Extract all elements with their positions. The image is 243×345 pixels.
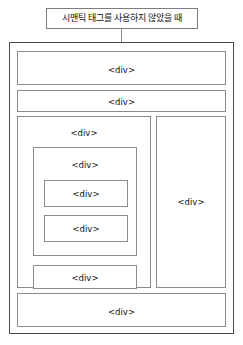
block-main-extra-div: <div> xyxy=(33,265,137,289)
block-section-two-div-label: <div> xyxy=(45,225,127,234)
diagram-root: 시맨틱 태그를 사용하지 않았을 때 <div> <div> <div> <di… xyxy=(0,0,243,345)
diagram-caption-box: 시맨틱 태그를 사용하지 않았을 때 xyxy=(46,8,198,29)
block-footer-div: <div> xyxy=(17,293,226,327)
block-article-div-label: <div> xyxy=(34,161,136,170)
block-section-two-div: <div> xyxy=(44,215,128,242)
caption-connector-line xyxy=(121,29,122,42)
block-article-div: <div> <div> <div> xyxy=(33,147,137,256)
block-nav-div: <div> xyxy=(17,90,226,112)
block-header-div-label: <div> xyxy=(18,66,225,75)
diagram-caption-label: 시맨틱 태그를 사용하지 않았을 때 xyxy=(62,14,182,23)
block-main-div-label: <div> xyxy=(18,129,150,138)
page-outer-frame: <div> <div> <div> <div> <div> <div> <div… xyxy=(9,42,234,334)
block-main-extra-div-label: <div> xyxy=(34,274,136,283)
block-footer-div-label: <div> xyxy=(18,308,225,317)
block-main-div: <div> <div> <div> <div> <div> xyxy=(17,116,151,288)
block-aside-div-label: <div> xyxy=(157,198,225,207)
block-section-one-div: <div> xyxy=(44,180,128,207)
block-header-div: <div> xyxy=(17,51,226,85)
block-aside-div: <div> xyxy=(156,116,226,288)
block-nav-div-label: <div> xyxy=(18,98,225,107)
block-section-one-div-label: <div> xyxy=(45,190,127,199)
